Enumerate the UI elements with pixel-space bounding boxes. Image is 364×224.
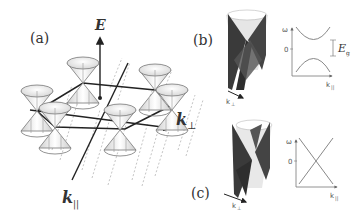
- k-parallel-axis-subscript: ||: [331, 84, 335, 91]
- k-perp-arrow: [228, 91, 243, 98]
- k-perp-arrow: [224, 194, 246, 202]
- cone-axis-subscript: ⊥: [231, 101, 235, 107]
- omega-axis-label: ω: [282, 26, 288, 34]
- cone-axis-subscript: ⊥: [237, 205, 241, 211]
- panel-c: (c) k ⊥ ω 0 k ||: [191, 120, 339, 211]
- k-parallel-label: k: [62, 188, 73, 207]
- gapless-dispersion-plot: [294, 138, 337, 187]
- dirac-cone: [104, 104, 136, 156]
- panel-b-label: (b): [193, 32, 213, 48]
- zero-tick-label: 0: [288, 158, 292, 166]
- panel-b: (b) k ⊥ ω 0 k || E g: [193, 10, 350, 107]
- gap-subscript: g: [346, 49, 350, 57]
- panel-a: (a): [21, 17, 203, 210]
- gapped-dispersion-plot: [290, 27, 336, 76]
- k-parallel-subscript: ||: [73, 199, 79, 210]
- k-perp-subscript: ⊥: [187, 120, 196, 131]
- gapless-cone-3d: [232, 120, 272, 198]
- k-parallel-axis-subscript: ||: [335, 195, 339, 202]
- omega-axis-label: ω: [286, 138, 292, 146]
- zero-tick-label: 0: [284, 46, 288, 54]
- dirac-cone: [67, 57, 99, 109]
- gapped-cone-3d: [226, 10, 268, 90]
- panel-c-label: (c): [191, 185, 210, 201]
- gap-label: E: [337, 42, 346, 55]
- panel-a-label: (a): [30, 30, 49, 46]
- energy-axis-label: E: [94, 17, 106, 33]
- k-perp-label: k: [176, 110, 187, 129]
- figure-canvas: (a): [0, 0, 364, 224]
